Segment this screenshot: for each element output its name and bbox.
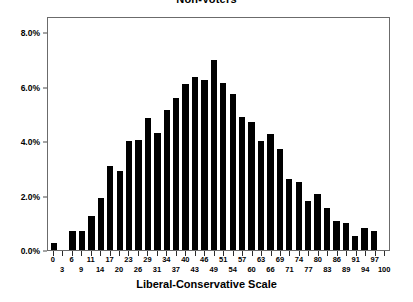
y-tick-label: 6.0% — [21, 83, 40, 93]
bar-slot — [294, 19, 303, 250]
x-tick-label: 69 — [276, 255, 284, 264]
bar-series — [49, 19, 388, 250]
bar — [211, 60, 217, 250]
bar — [230, 94, 236, 250]
bar-slot — [153, 19, 162, 250]
x-label-slot: 37 — [171, 255, 180, 277]
x-label-slot: 94 — [360, 255, 369, 277]
chart-figure: Non-Voters 0.0%2.0%4.0%6.0%8.0% 03691114… — [0, 0, 413, 302]
bar-slot — [285, 19, 294, 250]
x-tick-label: 0 — [51, 255, 55, 264]
x-label-slot: 83 — [323, 255, 332, 277]
x-tick-label: 3 — [60, 265, 64, 274]
bar-slot — [134, 19, 143, 250]
bar-slot — [171, 19, 180, 250]
y-tick-label: 2.0% — [21, 192, 40, 202]
bar — [296, 182, 302, 250]
x-label-slot: 46 — [200, 255, 209, 277]
x-label-slot: 6 — [67, 255, 76, 277]
bar — [192, 77, 198, 250]
x-label-slot: 29 — [143, 255, 152, 277]
x-tick-label: 83 — [323, 265, 331, 274]
x-tick-label: 37 — [172, 265, 180, 274]
bar — [343, 223, 349, 250]
x-label-slot: 80 — [313, 255, 322, 277]
bar-slot — [96, 19, 105, 250]
x-label-slot: 63 — [256, 255, 265, 277]
x-tick-label: 91 — [352, 255, 360, 264]
y-axis: 0.0%2.0%4.0%6.0%8.0% — [0, 17, 40, 251]
bar-slot — [77, 19, 86, 250]
bar — [239, 117, 245, 250]
x-label-slot: 66 — [266, 255, 275, 277]
bar — [305, 201, 311, 250]
bar — [201, 80, 207, 250]
bar-slot — [332, 19, 341, 250]
bar-slot — [360, 19, 369, 250]
x-axis-title: Liberal-Conservative Scale — [0, 278, 413, 290]
bar — [371, 231, 377, 250]
bar — [352, 236, 358, 250]
x-tick-label: 77 — [304, 265, 312, 274]
x-label-slot: 3 — [57, 255, 66, 277]
x-label-slot: 43 — [190, 255, 199, 277]
bar-slot — [228, 19, 237, 250]
bar-slot — [275, 19, 284, 250]
x-tick-label: 17 — [105, 255, 113, 264]
bar-slot — [369, 19, 378, 250]
bar — [117, 171, 123, 250]
bar — [79, 231, 85, 250]
x-tick-label: 63 — [257, 255, 265, 264]
x-tick-label: 31 — [153, 265, 161, 274]
x-tick-label: 80 — [314, 255, 322, 264]
x-label-slot: 20 — [114, 255, 123, 277]
x-tick-label: 51 — [219, 255, 227, 264]
bar-slot — [200, 19, 209, 250]
bar — [324, 208, 330, 250]
x-tick-label: 60 — [247, 265, 255, 274]
x-label-slot: 40 — [181, 255, 190, 277]
bar-slot — [68, 19, 77, 250]
bar — [267, 134, 273, 250]
x-label-slot: 26 — [133, 255, 142, 277]
x-tick-label: 66 — [266, 265, 274, 274]
bar-slot — [219, 19, 228, 250]
x-tick-label: 86 — [333, 255, 341, 264]
bar — [154, 133, 160, 250]
bar-slot — [58, 19, 67, 250]
bar — [333, 221, 339, 250]
x-label-slot: 31 — [152, 255, 161, 277]
bar-slot — [237, 19, 246, 250]
bar-slot — [49, 19, 58, 250]
x-tick-label: 74 — [295, 255, 303, 264]
bar-slot — [115, 19, 124, 250]
x-tick-label: 34 — [162, 255, 170, 264]
bar-slot — [266, 19, 275, 250]
bar-slot — [209, 19, 218, 250]
x-tick-label: 89 — [342, 265, 350, 274]
bar — [286, 179, 292, 250]
bar-slot — [162, 19, 171, 250]
x-tick-label: 97 — [371, 255, 379, 264]
x-tick-label: 46 — [200, 255, 208, 264]
bar-slot — [106, 19, 115, 250]
bar-slot — [341, 19, 350, 250]
x-label-slot: 11 — [86, 255, 95, 277]
bar-slot — [181, 19, 190, 250]
plot-area — [47, 17, 390, 251]
bar — [173, 98, 179, 250]
x-label-slot: 14 — [95, 255, 104, 277]
x-tick-label: 43 — [191, 265, 199, 274]
bar — [258, 141, 264, 250]
y-tick-label: 4.0% — [21, 137, 40, 147]
bar — [145, 118, 151, 250]
x-label-slot: 74 — [294, 255, 303, 277]
bar-slot — [124, 19, 133, 250]
x-label-slot: 89 — [342, 255, 351, 277]
x-label-slot: 71 — [285, 255, 294, 277]
y-tick-label: 0.0% — [21, 246, 40, 256]
x-label-slot: 51 — [218, 255, 227, 277]
bar — [107, 166, 113, 250]
x-tick-label: 94 — [361, 265, 369, 274]
bar — [248, 122, 254, 250]
